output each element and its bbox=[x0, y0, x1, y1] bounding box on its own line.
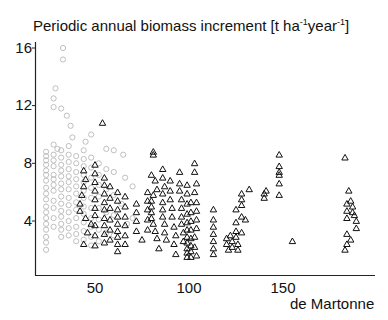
triangle-marker bbox=[276, 163, 282, 169]
circle-marker bbox=[51, 216, 56, 221]
triangle-marker bbox=[101, 190, 107, 196]
triangle-marker bbox=[233, 228, 239, 234]
circle-marker bbox=[74, 161, 79, 166]
triangle-marker bbox=[171, 224, 177, 230]
triangle-marker bbox=[101, 182, 107, 188]
circle-marker bbox=[51, 205, 56, 210]
triangle-marker bbox=[289, 238, 295, 244]
circle-marker bbox=[51, 224, 56, 229]
triangle-marker bbox=[169, 214, 175, 220]
triangle-marker bbox=[107, 205, 113, 211]
triangle-marker bbox=[348, 237, 354, 243]
circle-marker bbox=[74, 169, 79, 174]
triangle-marker bbox=[107, 183, 113, 189]
triangle-marker bbox=[344, 231, 350, 237]
circle-marker bbox=[74, 184, 79, 189]
triangle-marker bbox=[161, 229, 167, 235]
triangle-marker bbox=[191, 169, 197, 175]
triangle-series bbox=[77, 120, 360, 260]
circle-marker bbox=[66, 152, 71, 157]
circle-marker bbox=[89, 155, 94, 160]
triangle-marker bbox=[114, 234, 120, 240]
triangle-marker bbox=[233, 219, 239, 225]
triangle-marker bbox=[114, 248, 120, 254]
circle-marker bbox=[44, 197, 49, 202]
circle-marker bbox=[44, 216, 49, 221]
circle-marker bbox=[74, 216, 79, 221]
circle-marker bbox=[51, 105, 56, 110]
triangle-marker bbox=[210, 216, 216, 222]
triangle-marker bbox=[101, 222, 107, 228]
triangle-marker bbox=[188, 209, 194, 215]
triangle-marker bbox=[139, 237, 145, 243]
circle-marker bbox=[44, 210, 49, 215]
triangle-marker bbox=[161, 183, 167, 189]
circle-marker bbox=[66, 180, 71, 185]
circle-marker bbox=[59, 227, 64, 232]
circle-marker bbox=[89, 185, 94, 190]
triangle-marker bbox=[173, 251, 179, 257]
circle-marker bbox=[44, 185, 49, 190]
triangle-marker bbox=[342, 154, 348, 160]
triangle-marker bbox=[133, 209, 139, 215]
circle-marker bbox=[59, 234, 64, 239]
triangle-marker bbox=[92, 162, 98, 168]
x-tick-label-100: 100 bbox=[169, 279, 209, 296]
circle-marker bbox=[59, 194, 64, 199]
triangle-marker bbox=[342, 247, 348, 253]
triangle-marker bbox=[193, 208, 199, 214]
circle-marker bbox=[74, 191, 79, 196]
circle-marker bbox=[51, 142, 56, 147]
triangle-marker bbox=[238, 202, 244, 208]
triangle-marker bbox=[276, 180, 282, 186]
circle-marker bbox=[51, 182, 56, 187]
circle-marker bbox=[83, 139, 88, 144]
triangle-marker bbox=[210, 251, 216, 257]
circle-marker bbox=[104, 167, 109, 172]
circle-marker bbox=[81, 148, 86, 153]
scatter-plot bbox=[0, 0, 388, 320]
circle-marker bbox=[66, 167, 71, 172]
triangle-marker bbox=[193, 199, 199, 205]
circle-marker bbox=[66, 174, 71, 179]
circle-marker bbox=[59, 168, 64, 173]
circle-marker bbox=[59, 174, 64, 179]
triangle-marker bbox=[148, 215, 154, 221]
circle-marker bbox=[66, 218, 71, 223]
triangle-marker bbox=[114, 189, 120, 195]
triangle-marker bbox=[144, 227, 150, 233]
circle-marker bbox=[60, 45, 65, 50]
triangle-marker bbox=[346, 188, 352, 194]
circle-marker bbox=[59, 155, 64, 160]
circle-marker bbox=[44, 221, 49, 226]
triangle-marker bbox=[99, 120, 105, 126]
circle-marker bbox=[89, 132, 94, 137]
circle-marker bbox=[44, 178, 49, 183]
triangle-marker bbox=[114, 206, 120, 212]
triangle-marker bbox=[184, 182, 190, 188]
triangle-marker bbox=[210, 206, 216, 212]
y-tick-label-8: 8 bbox=[8, 154, 32, 171]
circle-marker bbox=[74, 177, 79, 182]
triangle-marker bbox=[160, 206, 166, 212]
triangle-marker bbox=[191, 189, 197, 195]
circle-marker bbox=[51, 198, 56, 203]
triangle-marker bbox=[92, 212, 98, 218]
circle-marker bbox=[64, 113, 69, 118]
y-tick-label-16: 16 bbox=[8, 39, 32, 56]
triangle-marker bbox=[154, 235, 160, 241]
circle-marker bbox=[74, 154, 79, 159]
triangle-marker bbox=[238, 190, 244, 196]
circle-marker bbox=[81, 156, 86, 161]
triangle-marker bbox=[173, 232, 179, 238]
triangle-marker bbox=[193, 225, 199, 231]
triangle-marker bbox=[114, 198, 120, 204]
triangle-marker bbox=[114, 221, 120, 227]
circle-marker bbox=[66, 195, 71, 200]
circle-marker bbox=[60, 57, 65, 62]
circle-marker bbox=[66, 210, 71, 215]
chart-title: Periodic annual biomass increment [t ha-… bbox=[33, 17, 349, 34]
circle-marker bbox=[59, 106, 64, 111]
circle-marker bbox=[59, 187, 64, 192]
triangle-marker bbox=[160, 199, 166, 205]
